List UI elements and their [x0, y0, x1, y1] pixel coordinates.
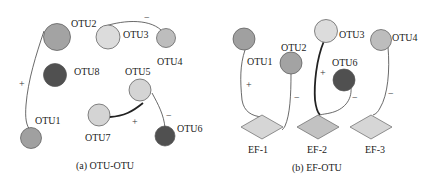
label-otu8: OTU8	[74, 66, 100, 77]
edge-otu5-otu7	[110, 103, 143, 117]
edge-ef3-otu4	[373, 47, 389, 115]
sign-ef3-otu4: −	[388, 88, 394, 99]
panel-a-otu-otu: + − + − OTU2 OTU3 OTU4 OTU8 OTU5 OTU7 OT…	[19, 12, 203, 172]
label-otu2: OTU2	[71, 18, 97, 29]
node-b-otu6	[333, 69, 355, 91]
node-b-otu4	[371, 30, 392, 51]
edge-ef2-otu3	[315, 41, 324, 115]
sign-ef2-otu3: +	[320, 67, 326, 78]
node-b-otu2	[280, 52, 302, 74]
factor-ef1	[241, 115, 283, 139]
node-b-otu3	[315, 20, 338, 43]
label-b-otu1: OTU1	[247, 56, 273, 67]
node-otu5	[129, 79, 151, 101]
caption-b: (b) EF-OTU	[292, 162, 342, 174]
label-b-otu4: OTU4	[392, 32, 418, 43]
label-ef3: EF-3	[365, 144, 385, 155]
label-otu5: OTU5	[125, 66, 151, 77]
label-b-otu3: OTU3	[339, 29, 365, 40]
label-b-otu2: OTU2	[281, 42, 307, 53]
panel-b-ef-otu: + − + − − OTU1 OTU2 OTU3 OTU4 OTU6 EF-1 …	[233, 20, 418, 175]
sign-ef1-otu1: +	[246, 79, 252, 90]
figure: + − + − OTU2 OTU3 OTU4 OTU8 OTU5 OTU7 OT…	[0, 0, 436, 184]
node-otu7	[88, 104, 110, 126]
edge-otu5-otu6	[152, 93, 165, 128]
node-otu3	[96, 25, 120, 49]
factor-ef2	[297, 115, 339, 139]
node-otu6	[155, 126, 175, 146]
label-ef2: EF-2	[307, 144, 327, 155]
sign-ef2-otu6: −	[352, 92, 358, 103]
node-otu4	[157, 29, 176, 48]
node-b-otu1	[233, 28, 255, 50]
label-b-otu6: OTU6	[332, 57, 358, 68]
caption-a: (a) OTU-OTU	[76, 160, 135, 172]
label-otu6: OTU6	[177, 123, 203, 134]
label-ef1: EF-1	[248, 144, 268, 155]
label-otu3: OTU3	[123, 29, 149, 40]
sign-ef1-otu2: −	[294, 92, 300, 103]
sign-otu5-otu7: +	[132, 116, 138, 127]
sign-otu3-otu4: −	[144, 12, 150, 23]
node-otu8	[44, 64, 67, 87]
sign-otu1-otu2: +	[19, 78, 25, 89]
node-otu2	[44, 24, 71, 51]
label-otu1: OTU1	[35, 115, 61, 126]
factor-ef3	[350, 115, 392, 139]
node-otu1	[21, 128, 42, 149]
label-otu7: OTU7	[85, 132, 111, 143]
label-otu4: OTU4	[157, 56, 183, 67]
edge-ef2-otu6	[320, 88, 351, 115]
edge-ef1-otu2	[282, 74, 291, 130]
sign-otu5-otu6: −	[166, 110, 172, 121]
